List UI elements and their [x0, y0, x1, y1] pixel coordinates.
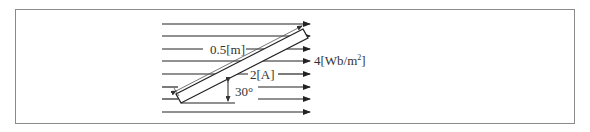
magnetic-field-diagram: 0.5[m] 2[A] 30° 4[Wb/m2] [0, 0, 590, 132]
field-strength-label: 4[Wb/m2] [314, 53, 366, 68]
current-label: 2[A] [250, 67, 275, 82]
length-label: 0.5[m] [210, 42, 245, 57]
angle-label: 30° [235, 84, 253, 99]
